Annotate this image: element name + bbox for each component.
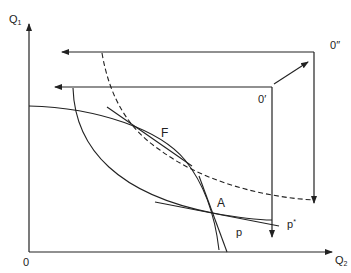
tangent-line-at-F — [107, 107, 192, 166]
price-line-p-star-label: p* — [287, 218, 296, 230]
diagram-canvas — [0, 0, 351, 273]
price-line-p-label: p — [236, 227, 242, 238]
price-line-p — [199, 176, 227, 252]
point-A-label: A — [217, 197, 225, 209]
origin-label: 0 — [23, 257, 29, 268]
origin-shift-arrow — [274, 62, 308, 84]
outer-box-axes — [62, 52, 314, 203]
inner-origin-label: 0′ — [258, 94, 266, 105]
inner-box-axes — [55, 87, 272, 237]
edgeworth-diagram: Q1 Q2 0 0′ 0″ F A p p* — [0, 0, 351, 273]
outer-origin-label: 0″ — [330, 40, 340, 51]
outer-dashed-curve — [102, 53, 314, 200]
y-axis-label: Q1 — [9, 14, 21, 26]
inner-contract-curve — [73, 88, 272, 220]
production-frontier-curve — [29, 106, 219, 250]
x-axis-label: Q2 — [335, 255, 347, 267]
point-F-label: F — [161, 127, 168, 139]
